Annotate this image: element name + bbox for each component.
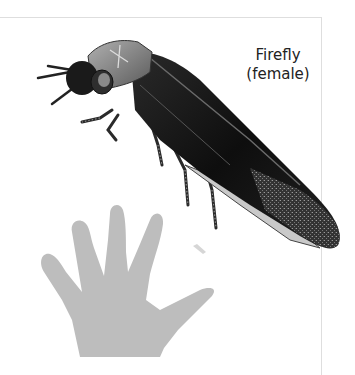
hand-silhouette	[41, 205, 214, 357]
firefly-label: Firefly (female)	[238, 46, 318, 84]
label-sex: (female)	[238, 65, 318, 84]
firefly-size-comparison-figure: Firefly (female)	[0, 0, 355, 375]
label-name: Firefly	[238, 46, 318, 65]
